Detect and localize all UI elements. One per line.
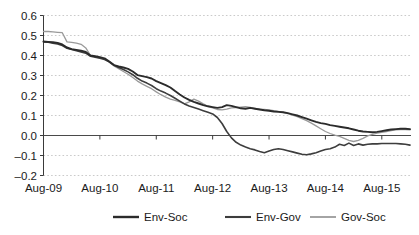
x-axis-tick-label: Aug-09 bbox=[25, 182, 62, 194]
legend-label-env-soc: Env-Soc bbox=[144, 211, 188, 223]
legend-label-env-gov: Env-Gov bbox=[256, 211, 301, 223]
line-chart: 0.60.50.40.30.20.10.0–0.1–0.2 Aug-09Aug-… bbox=[0, 0, 419, 235]
y-axis-tick-label: –0.2 bbox=[15, 170, 37, 182]
y-axis-tick-label: 0.2 bbox=[21, 90, 37, 102]
y-axis-tick-label: 0.1 bbox=[21, 110, 37, 122]
x-axis-tick-label: Aug-11 bbox=[138, 182, 174, 194]
y-axis-tick-labels: 0.60.50.40.30.20.10.0–0.1–0.2 bbox=[15, 10, 38, 182]
gridlines-group bbox=[44, 16, 412, 176]
series-line-gov-soc bbox=[44, 32, 411, 142]
legend-label-gov-soc: Gov-Soc bbox=[341, 211, 386, 223]
series-line-env-gov bbox=[44, 42, 411, 155]
y-axis-tick-label: 0.5 bbox=[21, 30, 37, 42]
x-axis-tick-label: Aug-10 bbox=[81, 182, 118, 194]
chart-container: 0.60.50.40.30.20.10.0–0.1–0.2 Aug-09Aug-… bbox=[0, 0, 419, 235]
y-axis-tick-label: –0.1 bbox=[15, 150, 37, 162]
x-axis-tick-label: Aug-12 bbox=[194, 182, 231, 194]
x-axis-tick-labels: Aug-09Aug-10Aug-11Aug-12Aug-13Aug-14Aug-… bbox=[25, 182, 400, 194]
x-axis-tick-label: Aug-15 bbox=[363, 182, 400, 194]
y-axis-tick-label: 0.3 bbox=[21, 70, 37, 82]
x-axis-tick-label: Aug-13 bbox=[250, 182, 287, 194]
y-axis-tick-label: 0.6 bbox=[21, 10, 37, 22]
y-axis-tick-label: 0.4 bbox=[21, 50, 38, 62]
series-group bbox=[44, 32, 411, 155]
x-axis-tick-label: Aug-14 bbox=[307, 182, 345, 194]
chart-legend: Env-SocEnv-GovGov-Soc bbox=[113, 211, 386, 223]
y-axis-tick-label: 0.0 bbox=[21, 130, 37, 142]
